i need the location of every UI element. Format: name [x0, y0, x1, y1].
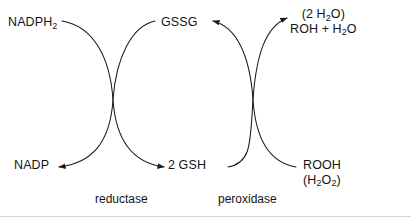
products-line-2: ROH + H2O	[290, 22, 357, 37]
node-label-nadp: NADP	[14, 158, 49, 173]
curve-gsh-to-products	[228, 18, 287, 167]
rooh-line-2: (H2O2)	[303, 173, 341, 188]
curve-rooh-to-gssg	[213, 21, 296, 167]
products-line2-head: ROH + H	[290, 22, 342, 36]
nadph2-text: NADPH	[8, 15, 52, 29]
rooh-line2-subscript-1: 2	[316, 178, 321, 188]
products-line-1: (2 H2O)	[302, 7, 345, 21]
products-line2-tail: O	[347, 22, 357, 36]
rooh-line-1: ROOH	[303, 158, 341, 172]
rooh-line2-subscript-2: 2	[331, 178, 336, 188]
node-label-rooh: ROOH (H2O2)	[303, 158, 341, 187]
nadph2-subscript: 2	[52, 21, 57, 31]
nadp-text: NADP	[14, 158, 49, 172]
products-line1-subscript: 2	[326, 13, 331, 23]
products-line2-subscript: 2	[342, 27, 347, 37]
rooh-line2-tail: )	[337, 173, 341, 187]
gsh-text: 2 GSH	[168, 158, 206, 172]
enzyme-label-reductase: reductase	[95, 192, 148, 206]
products-line1-head: (2 H	[302, 7, 326, 21]
gssg-text: GSSG	[161, 15, 198, 29]
node-label-gssg: GSSG	[161, 15, 198, 30]
products-line1-tail: O)	[331, 7, 345, 21]
curve-gsh-side-to-nadp	[59, 21, 155, 167]
bottom-divider	[0, 216, 411, 217]
node-label-nadph2: NADPH2	[8, 15, 57, 30]
enzyme-label-peroxidase: peroxidase	[218, 192, 277, 206]
pathway-diagram: NADPH2 GSSG (2 H2O) ROH + H2O NADP 2 GSH…	[0, 0, 411, 221]
rooh-line2-mid: O	[322, 173, 332, 187]
rooh-line2-head: (H	[303, 173, 316, 187]
node-label-gsh: 2 GSH	[168, 158, 206, 173]
node-label-products: (2 H2O) ROH + H2O	[290, 7, 357, 36]
